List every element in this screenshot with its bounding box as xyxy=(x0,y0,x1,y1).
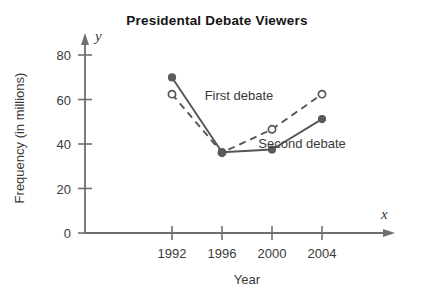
y-axis: y xyxy=(81,28,102,233)
chart-title: Presidental Debate Viewers xyxy=(126,13,307,28)
data-point-1992 xyxy=(168,91,175,98)
x-axis-tick-labels: 1992 1996 2000 2004 xyxy=(158,246,337,261)
y-tick-label-20: 20 xyxy=(57,182,71,197)
y-axis-title: Frequency (in millions) xyxy=(12,73,27,204)
chart-canvas: Presidental Debate Viewers y 80 60 40 20… xyxy=(0,0,434,308)
y-axis-tick-labels: 80 60 40 20 0 xyxy=(57,48,71,241)
y-axis-variable-label: y xyxy=(93,28,102,44)
x-tick-label-1992: 1992 xyxy=(158,246,187,261)
data-point-2004 xyxy=(318,91,325,98)
data-point-2004 xyxy=(319,116,326,123)
x-tick-label-1996: 1996 xyxy=(208,246,237,261)
y-tick-label-40: 40 xyxy=(57,137,71,152)
data-point-2000 xyxy=(268,126,275,133)
data-point-1992 xyxy=(169,74,176,81)
data-point-1996 xyxy=(219,149,226,156)
series-label-second-debate: Second debate xyxy=(258,136,345,151)
series-label-first-debate: First debate xyxy=(205,88,274,103)
x-axis-variable-label: x xyxy=(380,206,388,222)
y-tick-label-60: 60 xyxy=(57,93,71,108)
y-tick-label-0: 0 xyxy=(64,226,71,241)
x-axis-arrowhead xyxy=(383,229,395,237)
y-axis-arrowhead xyxy=(81,33,89,45)
chart-figure: Presidental Debate Viewers y 80 60 40 20… xyxy=(0,0,434,308)
y-tick-label-80: 80 xyxy=(57,48,71,63)
x-tick-label-2004: 2004 xyxy=(308,246,337,261)
x-axis: x xyxy=(85,206,395,237)
x-tick-label-2000: 2000 xyxy=(258,246,287,261)
x-axis-title: Year xyxy=(234,272,261,287)
